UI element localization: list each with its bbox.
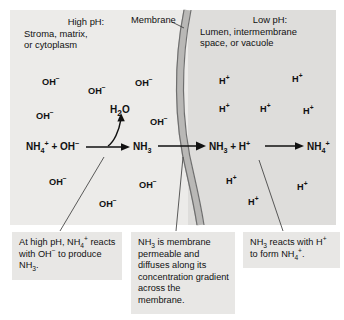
high-ph-title: High pH: bbox=[24, 16, 144, 28]
ammonia-transport-diagram: High pH: Stroma, matrix, or cytoplasm Lo… bbox=[0, 0, 344, 320]
low-ph-title: Low pH: bbox=[200, 14, 340, 26]
hydroxide-ion-3: OH− bbox=[36, 111, 54, 121]
caption-high-ph: At high pH, NH4+ reacts with OH− to prod… bbox=[12, 232, 122, 280]
high-ph-header: High pH: Stroma, matrix, or cytoplasm bbox=[24, 16, 144, 51]
reaction-term-ammonium-plus-hydroxide: NH4+ + OH− bbox=[26, 141, 79, 152]
proton-ion-6: H+ bbox=[297, 182, 308, 192]
high-ph-line-1: Stroma, matrix, bbox=[24, 28, 88, 39]
hydroxide-ion-6: OH− bbox=[139, 180, 157, 190]
high-ph-line-2: or cytoplasm bbox=[24, 39, 77, 50]
proton-ion-1: H+ bbox=[292, 74, 303, 84]
caption-low-ph: NH3 reacts with H+ to form NH4+. bbox=[243, 232, 340, 268]
proton-ion-2: H+ bbox=[219, 104, 230, 114]
low-ph-line-1: Lumen, intermembrane bbox=[200, 26, 297, 37]
caption-membrane-permeable: NH3 is membrane permeable and diffuses a… bbox=[131, 232, 235, 314]
proton-ion-3: H+ bbox=[260, 104, 271, 114]
hydroxide-ion-2: OH− bbox=[135, 78, 153, 88]
hydroxide-ion-5: OH− bbox=[49, 177, 67, 187]
low-ph-line-2: space, or vacuole bbox=[200, 37, 273, 48]
proton-ion-0: H+ bbox=[219, 76, 230, 86]
reaction-byproduct-water: H2O bbox=[110, 104, 130, 118]
hydroxide-ion-7: OH− bbox=[99, 199, 117, 209]
proton-ion-5: H+ bbox=[226, 176, 237, 186]
reaction-term-ammonia-left: NH3 bbox=[133, 141, 151, 152]
reaction-term-ammonium-right: NH4+ bbox=[307, 141, 330, 152]
hydroxide-ion-0: OH− bbox=[42, 77, 60, 87]
reaction-term-ammonia-plus-proton: NH3 + H+ bbox=[209, 141, 250, 152]
hydroxide-ion-1: OH− bbox=[88, 86, 106, 96]
low-ph-header: Low pH: Lumen, intermembrane space, or v… bbox=[200, 14, 340, 49]
hydroxide-ion-4: OH− bbox=[150, 117, 168, 127]
proton-ion-4: H+ bbox=[303, 106, 314, 116]
membrane-label: Membrane bbox=[131, 14, 176, 25]
proton-ion-7: H+ bbox=[248, 197, 259, 207]
